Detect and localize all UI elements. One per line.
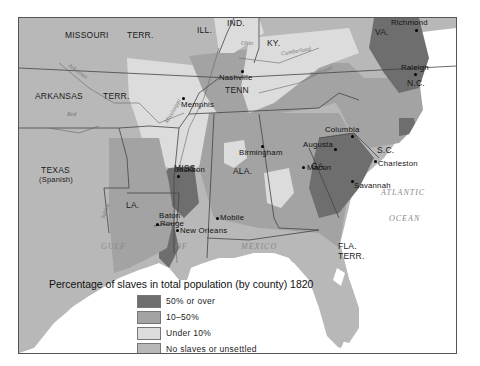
- state-label-missouri: MISSOURI: [65, 30, 109, 40]
- city-label-charleston: Charleston: [378, 159, 418, 168]
- state-label-missouri-terr: TERR.: [127, 30, 154, 40]
- city-dot-mobile: [216, 217, 219, 220]
- state-label-la: LA.: [126, 200, 139, 210]
- legend-item-no-slaves: No slaves or unsettled: [137, 342, 257, 354]
- city-dot-richmond: [415, 29, 418, 32]
- state-label-texas: TEXAS: [41, 165, 70, 175]
- city-label-nashville: Nashville: [219, 73, 252, 82]
- legend-label: No slaves or unsettled: [166, 344, 257, 354]
- state-label-ala: ALA.: [233, 166, 252, 176]
- city-dot-augusta: [334, 148, 337, 151]
- city-label-macon: Macon: [307, 163, 331, 172]
- legend-label: 50% or over: [166, 296, 215, 306]
- legend-item-10-50: 10–50%: [137, 310, 199, 324]
- legend-item-under-10: Under 10%: [137, 326, 211, 340]
- city-label-columbia: Columbia: [325, 125, 360, 134]
- city-dot-raleigh: [414, 73, 417, 76]
- state-label-fla-terr: TERR.: [338, 251, 365, 261]
- state-label-nc: N.C.: [407, 78, 425, 88]
- state-label-sc: S.C.: [377, 145, 394, 155]
- water-label-ocean: OCEAN: [389, 214, 420, 223]
- city-dot-baton-rouge: [156, 223, 159, 226]
- map-frame: MISSOURI TERR. ILL. IND. KY. VA. ARKANSA…: [18, 17, 457, 354]
- legend-item-over-50: 50% or over: [137, 294, 215, 308]
- legend-swatch-10-50: [137, 311, 161, 324]
- water-label-gulf: GULF: [101, 242, 126, 251]
- city-label-richmond: Richmond: [391, 18, 428, 27]
- state-label-va: VA.: [375, 27, 389, 37]
- water-label-of: OF: [175, 242, 188, 251]
- water-label-atlantic: ATLANTIC: [381, 188, 425, 197]
- city-label-new-orleans: New Orleans: [180, 226, 227, 235]
- state-label-arkansas-terr: TERR.: [103, 91, 130, 101]
- city-dot-charleston: [374, 160, 377, 163]
- river-label-red: Red: [67, 111, 76, 117]
- river-label-ohio: Ohio: [241, 40, 253, 46]
- city-dot-jackson: [177, 175, 180, 178]
- state-label-tenn: TENN: [225, 85, 249, 95]
- city-label-raleigh: Raleigh: [401, 63, 429, 72]
- state-label-texas-sub: (Spanish): [39, 175, 73, 184]
- state-label-ky: KY.: [267, 38, 280, 48]
- city-label-birmingham: Birmingham: [239, 148, 283, 157]
- state-label-arkansas: ARKANSAS: [35, 91, 83, 101]
- city-label-jackson: Jackson: [175, 165, 205, 174]
- city-dot-new-orleans: [176, 229, 179, 232]
- city-dot-macon: [302, 166, 305, 169]
- legend-label: 10–50%: [166, 312, 199, 322]
- water-label-mexico: MEXICO: [241, 242, 277, 251]
- legend-swatch-under-10: [137, 327, 161, 340]
- city-dot-columbia: [351, 135, 354, 138]
- legend-swatch-no-slaves: [137, 343, 161, 355]
- city-label-memphis: Memphis: [181, 100, 214, 109]
- legend-title: Percentage of slaves in total population…: [49, 278, 313, 290]
- legend-swatch-over-50: [137, 295, 161, 308]
- city-label-mobile: Mobile: [220, 213, 244, 222]
- city-label-augusta: Augusta: [303, 140, 333, 149]
- state-label-ind: IND.: [227, 18, 245, 28]
- state-label-fla: FLA.: [338, 241, 357, 251]
- state-label-ill: ILL.: [197, 25, 212, 35]
- legend-label: Under 10%: [166, 328, 211, 338]
